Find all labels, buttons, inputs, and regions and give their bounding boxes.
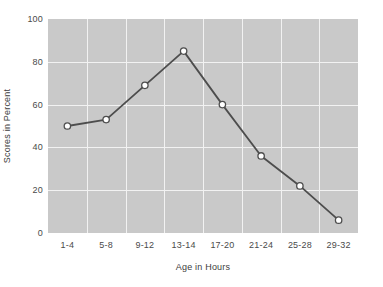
data-point-marker [180,48,186,54]
data-point-marker [103,116,109,122]
plot-area [48,19,358,233]
data-point-marker [297,183,303,189]
y-axis-tick-label: 100 [3,14,43,24]
x-axis-tick-labels: 1-45-89-1213-1417-2021-2425-2829-32 [48,240,358,252]
line-chart-figure: Scores in Percent 020406080100 1-45-89-1… [0,0,383,287]
data-point-marker [219,101,225,107]
data-point-marker [258,153,264,159]
y-axis-tick-label: 0 [3,228,43,238]
series-markers [64,48,342,223]
y-axis-tick-label: 40 [3,142,43,152]
x-axis-title: Age in Hours [48,262,358,272]
series-line-scores [67,51,338,220]
x-axis-tick-label: 29-32 [311,240,367,250]
data-series-layer [48,19,358,233]
y-axis-tick-labels: 020406080100 [0,19,43,233]
y-axis-tick-label: 60 [3,100,43,110]
data-point-marker [64,123,70,129]
data-point-marker [142,82,148,88]
y-axis-tick-label: 80 [3,57,43,67]
y-axis-tick-label: 20 [3,185,43,195]
data-point-marker [335,217,341,223]
